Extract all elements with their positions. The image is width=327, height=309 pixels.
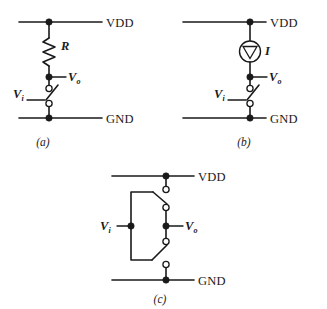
input-label-sub-b: i — [223, 94, 226, 103]
panel-c: VDD V o — [100, 170, 226, 307]
resistor-label-a: R — [60, 39, 69, 53]
gnd-node-dot-b — [247, 115, 253, 121]
gnd-node-dot-c — [163, 277, 169, 283]
caption-c: (c) — [154, 293, 167, 306]
caption-b: (b) — [237, 136, 251, 149]
switch-lower-terminal-a[interactable] — [46, 100, 52, 106]
vdd-rail-label-b: VDD — [270, 16, 298, 30]
input-to-pulldown-control-wire-c — [131, 226, 152, 260]
pulldown-switch-blade-c[interactable] — [152, 245, 167, 260]
vdd-rail-label-a: VDD — [106, 16, 134, 30]
output-label-sub-c: o — [194, 226, 198, 235]
input-to-pullup-control-wire-c — [131, 192, 153, 226]
current-label-b: I — [264, 44, 271, 58]
caption-a: (a) — [36, 136, 50, 149]
input-label-sub-a: i — [22, 94, 25, 103]
circuit-figure: VDD R V o V i — [0, 0, 327, 309]
gnd-rail-label-c: GND — [198, 274, 226, 288]
panel-b: VDD I V o V i — [183, 16, 298, 150]
circuit-diagram-canvas: VDD R V o V i — [0, 0, 327, 309]
gnd-node-dot-a — [46, 115, 52, 121]
input-label-sub-c: i — [109, 226, 112, 235]
switch-lower-terminal-b[interactable] — [247, 100, 253, 106]
pulldown-switch-lower-terminal-c[interactable] — [163, 261, 169, 267]
pullup-switch-upper-terminal-c[interactable] — [163, 186, 169, 192]
pulldown-switch-upper-terminal-c[interactable] — [163, 238, 169, 244]
gnd-rail-label-b: GND — [270, 112, 298, 126]
switch-upper-terminal-b[interactable] — [247, 85, 253, 91]
vdd-rail-label-c: VDD — [198, 170, 226, 184]
resistor-zigzag-a — [43, 38, 55, 66]
output-label-sub-a: o — [77, 77, 81, 86]
panel-a: VDD R V o V i — [13, 16, 134, 150]
gnd-rail-label-a: GND — [106, 112, 134, 126]
output-label-sub-b: o — [278, 77, 282, 86]
pullup-switch-blade-c[interactable] — [153, 192, 167, 204]
pullup-switch-lower-terminal-c[interactable] — [163, 204, 169, 210]
switch-upper-terminal-a[interactable] — [46, 85, 52, 91]
